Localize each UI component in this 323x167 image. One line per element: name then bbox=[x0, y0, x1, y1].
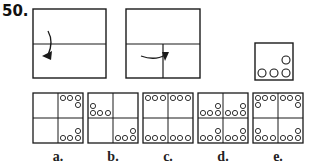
option-e-label[interactable]: e. bbox=[253, 149, 303, 165]
option-d-label[interactable]: d. bbox=[198, 149, 248, 165]
question-number: 50. bbox=[2, 2, 29, 20]
option-b-label[interactable]: b. bbox=[88, 149, 138, 165]
option-e[interactable] bbox=[252, 92, 304, 144]
punched-square bbox=[254, 42, 294, 81]
hole-icons bbox=[258, 56, 290, 77]
option-a-label[interactable]: a. bbox=[33, 149, 83, 165]
fold-right-diagram bbox=[125, 8, 202, 80]
option-c[interactable] bbox=[142, 92, 194, 144]
fold-step-1 bbox=[32, 8, 108, 80]
fold-down-diagram bbox=[32, 8, 108, 80]
option-c-label[interactable]: c. bbox=[143, 149, 193, 165]
curved-arrow-right-icon bbox=[141, 55, 165, 58]
fold-step-2 bbox=[125, 8, 202, 80]
option-d[interactable] bbox=[197, 92, 249, 144]
option-b[interactable] bbox=[87, 92, 139, 144]
curved-arrow-down-icon bbox=[48, 31, 51, 55]
option-a[interactable] bbox=[32, 92, 84, 144]
